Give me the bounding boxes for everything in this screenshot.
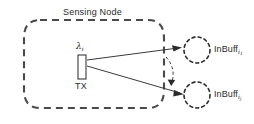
arrow-to-buffer-2 [87, 66, 180, 93]
arrowhead-buffer-2 [173, 90, 184, 97]
buffer-label-2-base: InBuff [214, 89, 238, 99]
buffer-label-1-subscript: i1 [238, 48, 243, 55]
buffer-label-1-sub-index: 1 [240, 51, 243, 56]
tx-label: TX [75, 82, 87, 91]
buffer-label-1: InBuffi1 [214, 45, 243, 57]
sensing-node-boundary [24, 20, 164, 108]
arrow-to-buffer-1 [87, 48, 178, 60]
buffer-circle-1 [184, 37, 210, 63]
buffer-label-1-base: InBuff [214, 44, 238, 54]
sensing-node-title: Sensing Node [63, 8, 122, 17]
tx-antenna-rect [78, 55, 86, 79]
arrowhead-curved-link [168, 79, 176, 86]
antenna-lambda-label: λi [76, 42, 84, 52]
buffer-label-2-sub-index: j [240, 96, 242, 101]
buffer-circle-2 [184, 82, 210, 108]
buffer-label-2-subscript: ij [238, 93, 242, 100]
curved-link-arrow [166, 57, 173, 82]
buffer-label-2: InBuffij [214, 90, 241, 102]
sensing-node-diagram: Sensing Node λi TX InBuffi1 InBuffij [0, 0, 254, 124]
diagram-canvas [0, 0, 254, 124]
arrowhead-buffer-1 [172, 45, 182, 51]
antenna-lambda-subscript: i [82, 45, 84, 52]
